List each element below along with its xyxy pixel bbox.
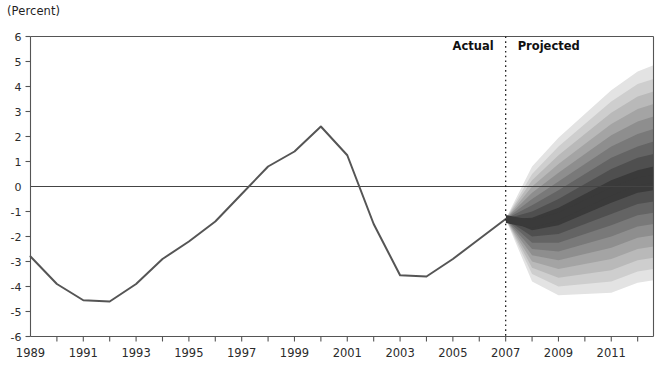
x-tick-label: 1997 <box>227 346 256 360</box>
x-tick-label: 1991 <box>69 346 98 360</box>
projected-region-label: Projected <box>518 39 580 53</box>
y-tick-label: 5 <box>15 56 22 69</box>
chart-plot-area: 6543210-1-2-3-4-5-6 19891991199319951997… <box>0 0 661 367</box>
actual-line-path <box>31 127 506 302</box>
x-tick-label: 2001 <box>333 346 362 360</box>
y-tick-label: -6 <box>11 331 22 344</box>
y-axis-ticks: 6543210-1-2-3-4-5-6 <box>11 31 31 344</box>
x-tick-label: 1999 <box>280 346 309 360</box>
y-tick-label: 3 <box>15 106 22 119</box>
actual-series-line <box>31 127 506 302</box>
x-tick-label: 2005 <box>438 346 467 360</box>
x-tick-label: 1993 <box>121 346 150 360</box>
y-tick-label: 2 <box>15 131 22 144</box>
x-tick-label: 1989 <box>16 346 45 360</box>
fan-chart: (Percent) 6543210-1-2-3-4-5-6 1989199119… <box>0 0 661 367</box>
actual-region-label: Actual <box>453 39 494 53</box>
y-tick-label: 6 <box>15 31 22 44</box>
x-tick-label: 2007 <box>491 346 520 360</box>
x-tick-label: 2003 <box>385 346 414 360</box>
y-tick-label: 0 <box>15 181 22 194</box>
y-tick-label: -5 <box>11 306 22 319</box>
x-tick-label: 2009 <box>544 346 573 360</box>
y-tick-label: 1 <box>15 156 22 169</box>
region-annotations: ActualProjected <box>453 39 580 53</box>
x-axis-ticks: 1989199119931995199719992001200320052007… <box>16 337 638 360</box>
x-tick-label: 1995 <box>174 346 203 360</box>
y-tick-label: -2 <box>11 231 22 244</box>
y-tick-label: -1 <box>11 206 22 219</box>
y-tick-label: -3 <box>11 256 22 269</box>
x-tick-label: 2011 <box>597 346 626 360</box>
y-tick-label: 4 <box>15 81 22 94</box>
y-tick-label: -4 <box>11 281 22 294</box>
